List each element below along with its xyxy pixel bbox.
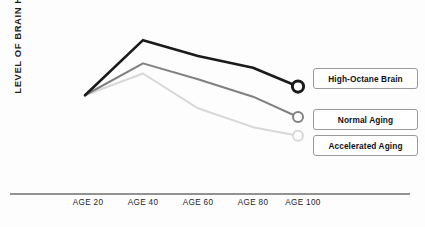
legend-label-accelerated-aging: Accelerated Aging [313,135,418,156]
x-tick-age-60: AGE 60 [183,198,213,207]
line-accelerated-aging [85,74,298,136]
legend-label-high-octane-brain: High-Octane Brain [313,68,418,89]
x-tick-age-80: AGE 80 [238,198,268,207]
x-tick-age-40: AGE 40 [128,198,158,207]
x-tick-age-100: AGE 100 [285,198,320,207]
endpoint-marker-high-octane-brain [292,81,303,92]
x-tick-age-20: AGE 20 [73,198,103,207]
endpoint-marker-normal-aging [293,112,303,122]
line-high-octane-brain [85,40,298,95]
legend-label-normal-aging: Normal Aging [313,109,418,130]
brain-health-line-chart: LEVEL OF BRAIN HEALTH* AGE 20 AGE 40 AGE… [0,0,425,227]
line-normal-aging [85,63,298,117]
endpoint-marker-accelerated-aging [293,131,303,141]
